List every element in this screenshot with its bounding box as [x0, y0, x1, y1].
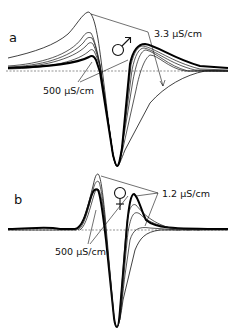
trace-b-mid3: [119, 205, 200, 322]
panel-a: a 3.3 µS/cm 500 µS/cm: [6, 12, 228, 166]
panel-b: b 1.2 µS/cm 500 µS/cm: [8, 174, 228, 327]
annotation-a-upper: 3.3 µS/cm: [154, 28, 202, 39]
female-symbol-icon: [115, 188, 126, 211]
annotation-a-lower: 500 µS/cm: [43, 85, 94, 96]
annotation-b-lower: 500 µS/cm: [55, 246, 106, 257]
annotation-b-upper: 1.2 µS/cm: [162, 188, 210, 199]
male-symbol-icon: [113, 38, 131, 56]
trace-a-mid2: [8, 37, 228, 166]
trace-a-mid1: [8, 33, 228, 166]
leader-lines-b-lower: [88, 196, 128, 244]
trace-a-500: [8, 44, 228, 166]
panel-label-a: a: [9, 30, 17, 45]
trace-b-500: [8, 189, 228, 327]
figure: a 3.3 µS/cm 500 µS/cm b: [0, 0, 236, 336]
panel-label-b: b: [14, 192, 22, 207]
